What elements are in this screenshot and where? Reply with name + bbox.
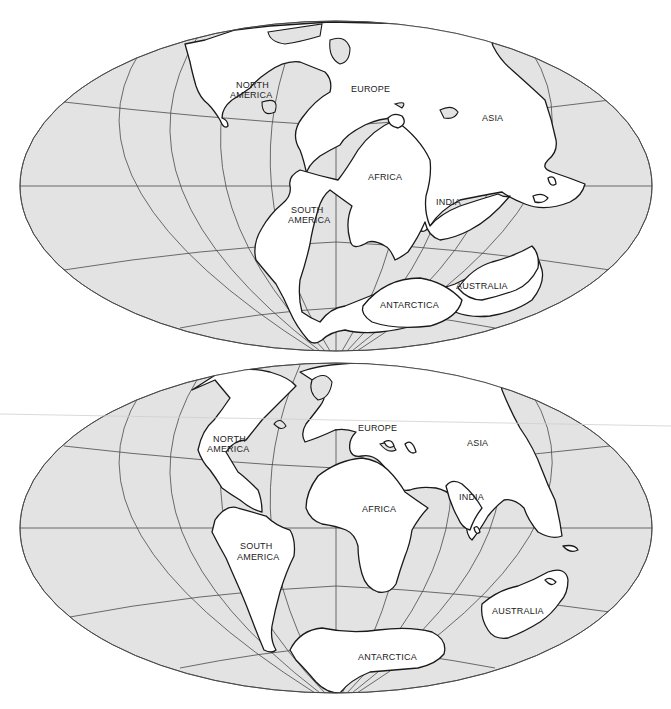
label-asia: ASIA xyxy=(482,113,503,123)
label-north-america-2: AMERICA xyxy=(230,90,272,100)
label-africa: AFRICA xyxy=(362,504,396,514)
label-south-america-2: AMERICA xyxy=(237,552,279,562)
label-antarctica: ANTARCTICA xyxy=(380,300,439,310)
label-north-america-2: AMERICA xyxy=(207,444,249,454)
label-north-america-1: NORTH xyxy=(213,434,246,444)
map-canvas-bottom: NORTH AMERICA EUROPE ASIA AFRICA INDIA S… xyxy=(0,355,671,709)
label-asia: ASIA xyxy=(467,438,488,448)
label-india: INDIA xyxy=(459,492,484,502)
map-canvas-top: NORTH AMERICA EUROPE ASIA AFRICA INDIA S… xyxy=(0,0,671,355)
label-india: INDIA xyxy=(436,197,461,207)
paleo-map-later: NORTH AMERICA EUROPE ASIA AFRICA INDIA S… xyxy=(0,355,671,709)
label-africa: AFRICA xyxy=(368,172,402,182)
label-australia: AUSTRALIA xyxy=(492,606,544,616)
label-europe: EUROPE xyxy=(351,84,390,94)
label-europe: EUROPE xyxy=(358,423,397,433)
label-north-america-1: NORTH xyxy=(236,80,269,90)
paleo-map-earlier: NORTH AMERICA EUROPE ASIA AFRICA INDIA S… xyxy=(0,0,671,355)
label-south-america-2: AMERICA xyxy=(288,215,330,225)
label-australia: AUSTRALIA xyxy=(456,281,508,291)
label-south-america-1: SOUTH xyxy=(240,541,273,551)
label-antarctica: ANTARCTICA xyxy=(358,652,417,662)
label-south-america-1: SOUTH xyxy=(291,205,324,215)
